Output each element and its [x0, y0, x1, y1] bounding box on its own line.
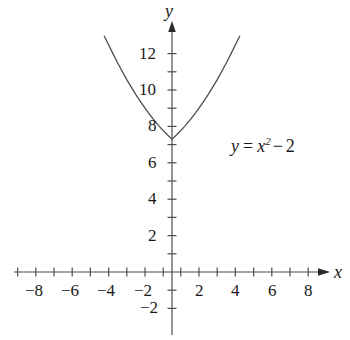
x-tick-label-neg8: −8: [25, 282, 43, 299]
equation-exponent: 2: [265, 135, 271, 147]
equation-lhs: y: [231, 136, 239, 156]
equation-equals: =: [243, 136, 253, 156]
curve-equation-label: y=x2−2: [231, 137, 295, 155]
y-axis: [168, 21, 176, 335]
x-tick-label-6: 6: [268, 282, 277, 299]
x-tick-label-neg4: −4: [97, 282, 115, 299]
y-tick-label-10: 10: [139, 81, 156, 98]
equation-base: x: [257, 136, 265, 156]
y-tick-label-neg2: −2: [140, 299, 158, 316]
y-tick-label-6: 6: [148, 154, 157, 171]
y-tick-label-12: 12: [139, 45, 156, 62]
x-axis-label: x: [334, 263, 342, 281]
y-axis-label: y: [165, 2, 173, 20]
x-tick-label-neg6: −6: [61, 282, 79, 299]
y-tick-label-4: 4: [148, 190, 157, 207]
y-axis-arrow-icon: [168, 21, 176, 32]
equation-minus: −: [273, 136, 283, 156]
x-axis-arrow-icon: [318, 268, 330, 276]
graph-figure: y x 12 10 8 6 4 2 −2 −8 −6 −4 −2 2 4 6 8…: [0, 0, 350, 340]
x-tick-label-2: 2: [195, 282, 204, 299]
y-tick-label-2: 2: [148, 227, 157, 244]
x-tick-label-8: 8: [304, 282, 313, 299]
equation-constant: 2: [286, 136, 295, 156]
plot-canvas: [0, 0, 350, 340]
x-tick-label-neg2: −2: [134, 282, 152, 299]
y-tick-label-8: 8: [148, 117, 157, 134]
x-tick-label-4: 4: [231, 282, 240, 299]
